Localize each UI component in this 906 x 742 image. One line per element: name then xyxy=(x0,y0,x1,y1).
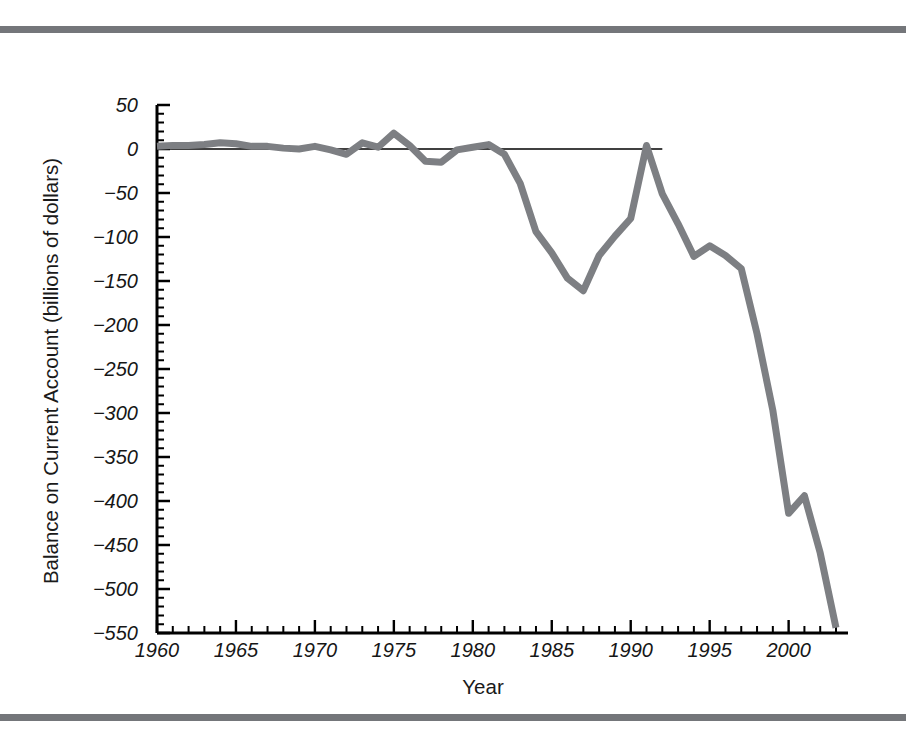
figure-page: Balance on Current Account (billions of … xyxy=(0,0,906,742)
data-series-line xyxy=(157,133,836,628)
axes xyxy=(157,105,848,633)
bottom-rule xyxy=(0,714,906,721)
top-rule xyxy=(0,26,906,33)
line-chart: Balance on Current Account (billions of … xyxy=(0,33,906,714)
plot-area xyxy=(0,33,906,714)
